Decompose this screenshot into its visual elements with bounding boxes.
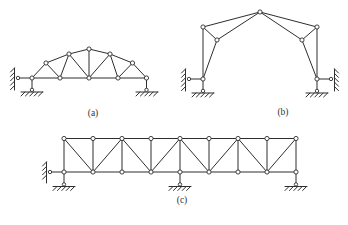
ground-hatch-line [30,92,34,96]
ground-hatch-line [192,93,196,97]
wall-hatch-line [335,87,339,91]
wall-hatch-line [11,68,15,72]
ground-hatch-line [319,93,323,97]
ground-hatch-line [66,187,70,191]
truss-a-member [46,54,69,63]
truss-a-member [60,54,69,78]
ground-hatch-line [289,187,293,191]
ground-hatch-line [149,92,153,96]
truss-c-joint [120,136,124,140]
ground-hatch-line [310,93,314,97]
truss-b-member [302,27,317,40]
wall-hinge-node [16,76,19,79]
truss-c-joint [207,136,211,140]
wall-hatch-line [11,72,15,76]
wall-hatch-line [11,86,15,90]
truss-a-member [133,63,147,78]
truss-c-joint [294,170,298,174]
wall-hatch-line [182,73,186,77]
truss-c-member [209,139,238,173]
truss-b-member [260,12,317,27]
wall-hinge-node [329,77,332,80]
truss-a-member [110,54,118,78]
truss-a-member [118,63,133,78]
truss-b-joint [215,38,219,42]
ground-hatch-line [21,92,25,96]
truss-b-member [302,40,317,79]
truss-c-joint [91,170,95,174]
truss-a-joint [44,61,48,65]
truss-b-joint [201,25,205,29]
ground-hatch-line [140,92,144,96]
ground-hatch-line [53,187,57,191]
truss-a-member [69,49,89,54]
ground-hatch-line [285,187,289,191]
ground-hatch-line [57,187,61,191]
ground-hatch-line [298,187,302,191]
truss-c-joint [62,170,66,174]
ground-hinge-node [62,183,65,186]
wall-hinge-node [48,170,51,173]
truss-c-member [151,139,180,173]
truss-a-joint [30,76,34,80]
truss-b-joint [258,10,262,14]
truss-b-joint [300,38,304,42]
truss-a-joint [58,76,62,80]
truss-c-joint [120,170,124,174]
truss-c-joint [294,136,298,140]
wall-hatch-line [43,162,47,166]
wall-hatch-line [335,82,339,86]
ground-hatch-line [39,92,43,96]
figure-container: (a)(b)(c) [0,0,348,225]
ground-hatch-line [187,187,191,191]
ground-hatch-line [182,187,186,191]
truss-c-joint [265,136,269,140]
truss-a-member [32,63,46,78]
ground-hatch-line [205,93,209,97]
ground-hinge-node [201,89,204,92]
truss-c-joint [149,136,153,140]
ground-hinge-node [30,88,33,91]
ground-hinge-node [294,183,297,186]
ground-hatch-line [25,92,29,96]
truss-b-member [260,12,302,40]
wall-hatch-line [182,78,186,82]
truss-c-member [180,139,209,173]
wall-hinge-node [187,77,190,80]
ground-hinge-node [145,88,148,91]
ground-hatch-line [136,92,140,96]
figure-label-b: (b) [277,107,288,118]
truss-c-member [93,139,122,173]
ground-hatch-line [196,93,200,97]
truss-b-member [217,12,260,40]
wall-hatch-line [11,81,15,85]
wall-hatch-line [11,77,15,81]
truss-a-member [69,54,89,78]
truss-c-joint [149,170,153,174]
truss-figure-svg: (a)(b)(c) [0,0,348,225]
wall-hatch-line [43,171,47,175]
truss-b-joint [315,25,319,29]
truss-c-member [122,139,151,173]
truss-c-joint [207,170,211,174]
truss-c-joint [178,170,182,174]
truss-c-joint [236,170,240,174]
wall-hatch-line [335,69,339,73]
ground-hatch-line [210,93,214,97]
truss-a-joint [87,47,91,51]
truss-a-member [46,63,60,78]
truss-a-member [89,49,110,54]
truss-c-member [64,139,93,173]
truss-a-member [110,54,133,63]
ground-hatch-line [173,187,177,191]
truss-a-joint [116,76,120,80]
truss-c-joint [91,136,95,140]
truss-a-joint [144,76,148,80]
truss-b-joint [315,77,319,81]
ground-hatch-line [306,93,310,97]
figure-label-c: (c) [177,195,188,206]
truss-b-member [203,12,260,27]
truss-c-member [238,139,267,173]
truss-b-joint [201,77,205,81]
figure-label-a: (a) [88,108,99,119]
